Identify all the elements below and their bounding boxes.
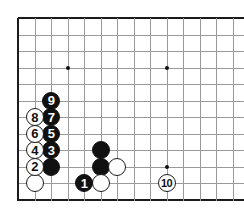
- move-number-label: 6: [31, 127, 38, 140]
- star-point: [165, 66, 169, 70]
- grid-line-vertical: [68, 18, 69, 201]
- grid-line-vertical: [200, 18, 201, 201]
- star-point: [165, 165, 169, 169]
- move-number-label: 10: [161, 178, 172, 189]
- grid-line-vertical: [183, 18, 184, 201]
- move-number-label: 5: [48, 127, 55, 140]
- go-stone-white-move-6: 6: [26, 125, 44, 143]
- go-stone-black: [92, 141, 110, 159]
- go-stone-white-move-8: 8: [26, 108, 44, 126]
- go-stone-black-move-1: 1: [75, 174, 93, 192]
- grid-line-vertical: [150, 18, 151, 201]
- star-point: [66, 66, 70, 70]
- go-stone-white-move-4: 4: [26, 141, 44, 159]
- grid-line-vertical: [17, 18, 19, 201]
- move-number-label: 7: [48, 111, 55, 124]
- move-number-label: 8: [31, 111, 38, 124]
- go-stone-white-move-10: 10: [158, 174, 176, 192]
- go-stone-white: [26, 174, 44, 192]
- move-number-label: 1: [81, 177, 88, 190]
- go-stone-black: [42, 158, 60, 176]
- move-number-label: 9: [48, 94, 55, 107]
- go-stone-black: [92, 158, 110, 176]
- move-number-label: 2: [31, 160, 38, 173]
- go-stone-black-move-3: 3: [42, 141, 60, 159]
- go-stone-black-move-7: 7: [42, 108, 60, 126]
- grid-line-vertical: [216, 18, 217, 201]
- move-number-label: 4: [31, 144, 38, 157]
- go-stone-white: [92, 174, 110, 192]
- go-stone-black-move-5: 5: [42, 125, 60, 143]
- move-number-label: 3: [48, 144, 55, 157]
- go-board-diagram: 12345678910: [0, 0, 244, 224]
- grid-line-vertical: [233, 18, 234, 201]
- go-stone-black-move-9: 9: [42, 92, 60, 110]
- grid-line-vertical: [134, 18, 135, 201]
- go-stone-white: [108, 158, 126, 176]
- go-stone-white-move-2: 2: [26, 158, 44, 176]
